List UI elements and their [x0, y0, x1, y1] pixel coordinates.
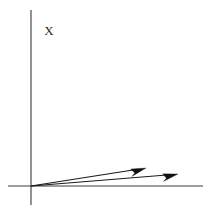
vector-1-arrowhead [131, 168, 146, 176]
vector-2-shaft [31, 175, 170, 186]
vector-diagram-figure: X [0, 0, 210, 213]
vector-1-shaft [31, 169, 138, 186]
vector-diagram-canvas: X [0, 0, 210, 213]
vertical-axis-label: X [44, 23, 54, 38]
vector-2-arrowhead [163, 174, 178, 182]
